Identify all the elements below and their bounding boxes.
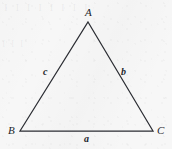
- triangle-polygon: [20, 22, 153, 131]
- vertex-label-b: B: [8, 125, 15, 136]
- triangle-outline: [0, 0, 172, 149]
- side-label-c: c: [43, 67, 47, 77]
- side-label-b: b: [121, 67, 126, 77]
- vertex-label-c: C: [157, 125, 164, 136]
- side-label-a: a: [84, 134, 89, 144]
- vertex-label-a: A: [85, 7, 92, 18]
- triangle-figure: I I I I I I I I I I I A B C a b c: [0, 0, 172, 149]
